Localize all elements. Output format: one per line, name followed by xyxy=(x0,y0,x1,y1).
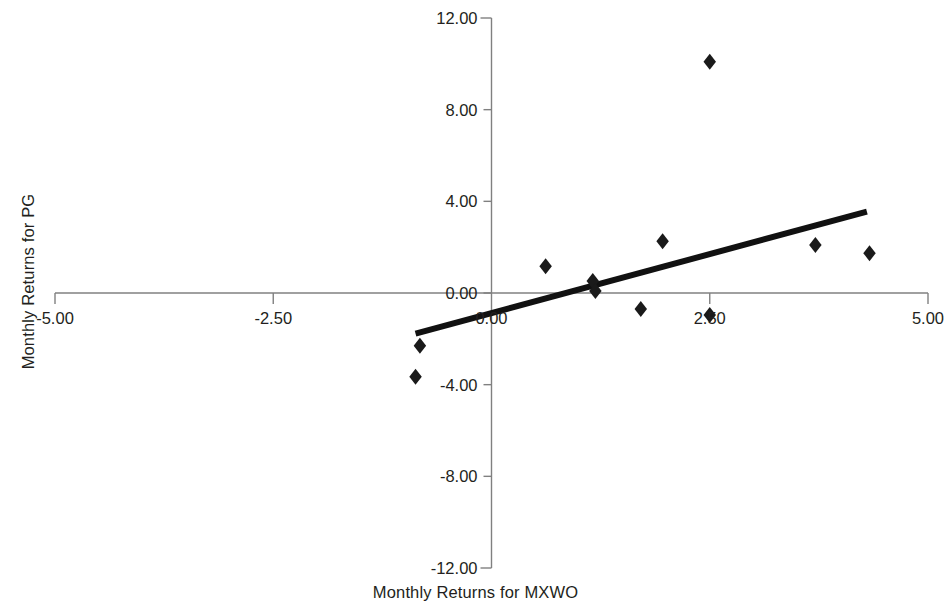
x-tick-label: 0.00 xyxy=(475,309,507,328)
x-axis-title: Monthly Returns for MXWO xyxy=(0,583,951,602)
y-tick-label: 8.00 xyxy=(400,100,478,119)
scatter-chart: 12.008.004.000.00-4.00-8.00-12.00-5.00-2… xyxy=(0,0,951,611)
data-point-marker xyxy=(414,338,426,354)
x-tick-label: 2.50 xyxy=(694,309,726,328)
axes-group xyxy=(55,18,928,568)
y-tick-label: -4.00 xyxy=(400,375,478,394)
data-point-marker xyxy=(656,233,668,249)
x-tick-label: -5.00 xyxy=(36,309,74,328)
y-tick-label: -12.00 xyxy=(400,559,478,578)
data-point-marker xyxy=(704,54,716,70)
y-tick-label: -8.00 xyxy=(400,467,478,486)
y-tick-label: 0.00 xyxy=(400,284,478,303)
data-point-marker xyxy=(809,237,821,253)
data-point-marker xyxy=(863,245,875,261)
data-point-marker xyxy=(635,301,647,317)
x-tick-label: -2.50 xyxy=(254,309,292,328)
data-points xyxy=(409,54,875,385)
data-point-marker xyxy=(539,258,551,274)
y-tick-label: 4.00 xyxy=(400,192,478,211)
y-axis-title: Monthly Returns for PG xyxy=(19,162,38,402)
y-tick-label: 12.00 xyxy=(400,9,478,28)
x-tick-label: 5.00 xyxy=(912,309,944,328)
plot-area xyxy=(0,0,951,611)
